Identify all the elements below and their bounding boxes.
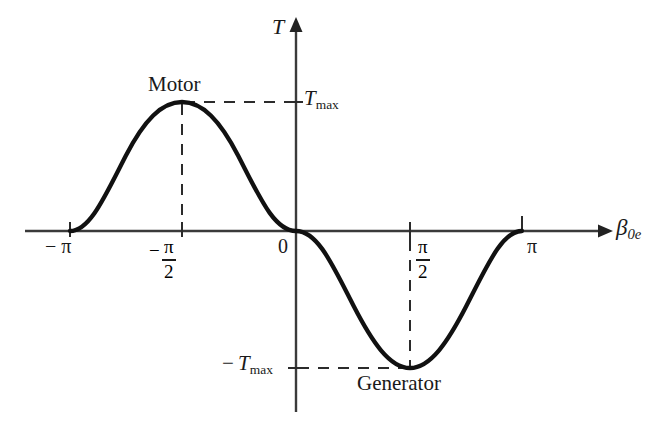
tick-label-neg-pi-half-numerator: π bbox=[162, 236, 176, 258]
x-axis-label: β0e bbox=[616, 216, 641, 242]
tick-label-pi-half: π 2 bbox=[416, 236, 430, 283]
torque-angle-plot bbox=[0, 0, 671, 438]
tick-label-pi-half-denominator: 2 bbox=[416, 261, 430, 283]
tick-label-neg-pi-half-denominator: 2 bbox=[162, 261, 176, 283]
neg-tmax-label: − Tmax bbox=[222, 353, 273, 376]
tick-label-neg-pi-half-minus: − bbox=[149, 240, 160, 262]
tick-label-pi-half-numerator: π bbox=[416, 236, 430, 258]
y-axis-label: T bbox=[272, 16, 284, 38]
tick-label-pi: π bbox=[527, 236, 537, 256]
tick-label-zero: 0 bbox=[278, 236, 288, 256]
tick-label-neg-pi: − π bbox=[45, 236, 71, 256]
tmax-label: Tmax bbox=[304, 88, 339, 111]
y-axis bbox=[290, 17, 303, 412]
x-axis-arrow-icon bbox=[598, 225, 613, 238]
tick-label-neg-pi-half: − π 2 bbox=[162, 236, 176, 283]
x-axis bbox=[25, 225, 613, 238]
generator-region-label: Generator bbox=[357, 373, 441, 394]
y-axis-arrow-icon bbox=[290, 17, 303, 32]
motor-region-label: Motor bbox=[148, 74, 201, 95]
